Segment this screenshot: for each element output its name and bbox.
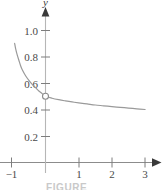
figure-caption: FIGURE: [46, 183, 87, 190]
figure-container: y −1 1 2 3 0.2 0.4 0.6 0.8 1.0: [0, 0, 166, 190]
figure-caption-strip: FIGURE: [0, 183, 166, 190]
y-tick-label-02: 0.2: [24, 131, 38, 143]
x-tick-label-2: 2: [109, 168, 115, 180]
x-tick-label-neg1: −1: [6, 168, 18, 180]
chart-plot: y −1 1 2 3 0.2 0.4 0.6 0.8 1.0: [0, 0, 166, 190]
y-tick-label-10: 1.0: [24, 25, 38, 37]
y-tick-label-04: 0.4: [24, 104, 38, 116]
y-axis-arrow-icon: [42, 7, 50, 17]
y-axis-label: y: [42, 0, 48, 8]
x-tick-label-1: 1: [76, 168, 82, 180]
x-tick-label-3: 3: [142, 168, 148, 180]
y-tick-label-08: 0.8: [24, 51, 38, 63]
x-axis-arrow-icon: [152, 158, 162, 166]
open-circle-marker: [43, 93, 49, 99]
